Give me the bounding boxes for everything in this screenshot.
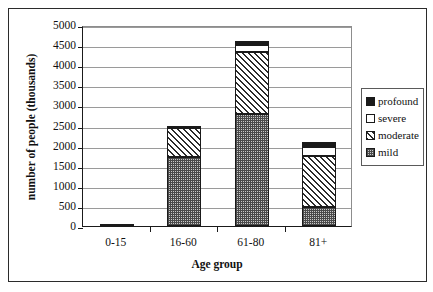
bar-stack[interactable] [100, 25, 134, 226]
bar-segment-profound[interactable] [235, 41, 269, 45]
x-axis-title: Age group [82, 258, 352, 270]
bar-stack[interactable] [302, 25, 336, 226]
y-axis-tick [78, 27, 83, 28]
y-axis-tick-label: 4000 [32, 60, 76, 72]
legend-item-mild[interactable]: mild [366, 144, 420, 161]
y-axis-tick-label: 0 [32, 221, 76, 233]
y-axis-tick-label: 3000 [32, 100, 76, 112]
y-axis-tick-label: 500 [32, 201, 76, 213]
y-axis-tick [78, 188, 83, 189]
legend-item-label: moderate [378, 130, 419, 141]
y-axis-tick-label: 4500 [32, 40, 76, 52]
bar-segment-profound[interactable] [302, 142, 336, 147]
y-axis-tick [78, 67, 83, 68]
plot-area [82, 26, 352, 227]
bar-segment-severe[interactable] [302, 147, 336, 156]
bar-segment-moderate[interactable] [167, 128, 201, 157]
legend-item-moderate[interactable]: moderate [366, 127, 420, 144]
legend-item-profound[interactable]: profound [366, 93, 420, 110]
stippled-swatch [366, 148, 375, 157]
bar-stack[interactable] [235, 25, 269, 226]
y-axis-tick-label: 2500 [32, 121, 76, 133]
y-axis-tick [78, 107, 83, 108]
y-axis-tick [78, 47, 83, 48]
x-axis: 0-1516-6061-8081+ [82, 227, 352, 257]
bar-segment-mild[interactable] [235, 114, 269, 226]
bar-segment-severe[interactable] [235, 45, 269, 52]
legend-item-label: profound [378, 96, 418, 107]
y-axis-tick-label: 5000 [32, 20, 76, 32]
y-axis-tick [78, 148, 83, 149]
x-axis-tick [285, 227, 286, 232]
legend-item-label: mild [378, 147, 398, 158]
bar-segment-mild[interactable] [302, 207, 336, 226]
solid-black-swatch [366, 97, 375, 106]
bar-segment-moderate[interactable] [235, 52, 269, 114]
x-axis-tick [217, 227, 218, 232]
y-axis-tick [78, 208, 83, 209]
y-axis-tick-label: 1500 [32, 161, 76, 173]
bar-segment-moderate[interactable] [302, 156, 336, 207]
white-swatch [366, 114, 375, 123]
y-axis-tick-label: 1000 [32, 181, 76, 193]
x-axis-tick [150, 227, 151, 232]
bar-segment-mild[interactable] [100, 224, 134, 226]
chart-legend: profoundseveremoderatemild [361, 88, 424, 166]
x-axis-tick-label: 81+ [278, 236, 358, 248]
diagonal-hatch-swatch [366, 131, 375, 140]
y-axis-tick-label: 3500 [32, 80, 76, 92]
bar-segment-mild[interactable] [167, 157, 201, 226]
legend-item-label: severe [378, 113, 406, 124]
bar-segment-profound[interactable] [167, 126, 201, 128]
y-axis-tick [78, 128, 83, 129]
legend-item-severe[interactable]: severe [366, 110, 420, 127]
y-axis-tick [78, 168, 83, 169]
y-axis-tick [78, 87, 83, 88]
y-axis-tick-label: 2000 [32, 141, 76, 153]
bar-stack[interactable] [167, 25, 201, 226]
chart-figure: number of people (thousands) 05001000150… [0, 0, 433, 292]
